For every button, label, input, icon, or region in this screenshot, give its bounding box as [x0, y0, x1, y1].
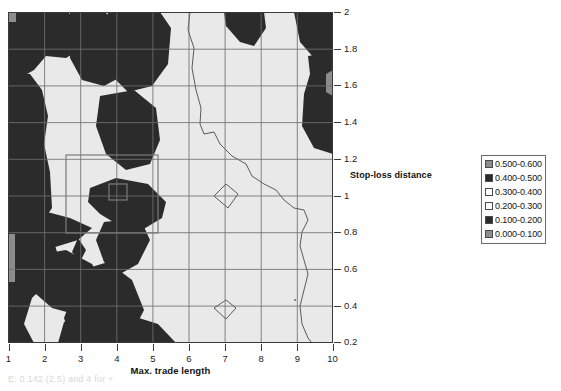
legend-item[interactable]: 0.500-0.600: [484, 157, 543, 171]
y-axis-tick-label: 2: [344, 6, 349, 17]
y-axis-tick-label: 1: [344, 190, 349, 201]
legend-swatch-icon: [485, 216, 493, 224]
legend-item[interactable]: 0.100-0.200: [484, 213, 543, 227]
footer-artifact-text: E: 0.142 (2.5) and 4 for +: [8, 374, 114, 384]
x-tick-mark: [117, 344, 118, 351]
y-axis-tick-label: 0.2: [344, 336, 357, 347]
legend-item-label: 0.400-0.500: [495, 173, 542, 183]
x-axis-tick-label: 5: [150, 353, 155, 364]
y-axis-tick-label: 1.4: [344, 116, 357, 127]
legend-item-label: 0.100-0.200: [495, 215, 542, 225]
y-axis-tick-label: 0.4: [344, 300, 357, 311]
legend-item-label: 0.200-0.300: [495, 201, 542, 211]
legend-item-label: 0.000-0.100: [495, 229, 542, 239]
x-tick-mark: [9, 344, 10, 351]
y-tick-mark: [334, 269, 341, 270]
legend[interactable]: 0.500-0.600 0.400-0.500 0.300-0.400 0.20…: [481, 155, 546, 244]
x-tick-mark: [45, 344, 46, 351]
legend-item-label: 0.500-0.600: [495, 159, 542, 169]
legend-item[interactable]: 0.200-0.300: [484, 199, 543, 213]
x-axis-tick-label: 7: [222, 353, 227, 364]
y-axis-tick-label: 1.2: [344, 153, 357, 164]
x-axis-tick-label: 10: [327, 353, 338, 364]
legend-swatch-icon: [485, 230, 493, 238]
x-axis-tick-label: 2: [42, 353, 47, 364]
y-tick-mark: [334, 49, 341, 50]
x-axis-tick-label: 4: [114, 353, 119, 364]
x-axis-tick-label: 8: [259, 353, 264, 364]
y-axis-tick-label: 1.8: [344, 43, 357, 54]
x-tick-mark: [297, 344, 298, 351]
y-axis-tick-label: 0.6: [344, 263, 357, 274]
legend-swatch-icon: [485, 188, 493, 196]
legend-swatch-icon: [485, 202, 493, 210]
legend-item[interactable]: 0.000-0.100: [484, 227, 543, 241]
y-tick-mark: [334, 85, 341, 86]
y-tick-mark: [334, 232, 341, 233]
y-axis-tick-label: 1.6: [344, 79, 357, 90]
y-tick-mark: [334, 122, 341, 123]
legend-swatch-icon: [485, 160, 493, 168]
legend-item-label: 0.300-0.400: [495, 187, 542, 197]
x-tick-mark: [81, 344, 82, 351]
legend-item[interactable]: 0.300-0.400: [484, 185, 543, 199]
x-tick-mark: [225, 344, 226, 351]
x-axis-tick-label: 6: [186, 353, 191, 364]
x-axis-tick-label: 1: [6, 353, 11, 364]
y-tick-mark: [334, 196, 341, 197]
plot-area[interactable]: [8, 12, 333, 343]
legend-item[interactable]: 0.400-0.500: [484, 171, 543, 185]
x-axis-tick-label: 3: [78, 353, 83, 364]
x-axis-tick-label: 9: [295, 353, 300, 364]
y-axis-title: Stop-loss distance: [350, 170, 432, 180]
y-tick-mark: [334, 12, 341, 13]
y-tick-mark: [334, 159, 341, 160]
x-tick-mark: [333, 344, 334, 351]
x-tick-mark: [261, 344, 262, 351]
x-tick-mark: [153, 344, 154, 351]
y-tick-mark: [334, 306, 341, 307]
y-axis-tick-label: 0.8: [344, 226, 357, 237]
plot-surface: [8, 12, 333, 343]
contour-chart-figure: 2 1.8 1.6 1.4 1.2 1 0.8 0.6 0.4 0.2 1 2 …: [0, 0, 561, 391]
x-tick-mark: [189, 344, 190, 351]
legend-swatch-icon: [485, 174, 493, 182]
